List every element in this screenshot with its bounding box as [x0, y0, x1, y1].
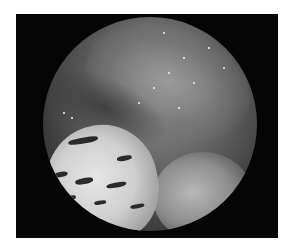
tissue-lobe: [153, 152, 253, 231]
specular-highlight: [223, 67, 225, 69]
mottle: [106, 181, 127, 189]
mottle: [94, 200, 107, 206]
image-frame: [16, 14, 278, 238]
specular-highlight: [208, 47, 210, 49]
mottle: [68, 195, 77, 200]
mottle: [75, 177, 94, 186]
endoscope-field: [43, 17, 257, 231]
specular-highlight: [138, 102, 140, 104]
mottle: [68, 135, 99, 146]
specular-highlight: [183, 57, 185, 59]
specular-highlight: [178, 107, 180, 109]
mottle: [53, 171, 68, 178]
specular-highlight: [163, 32, 165, 34]
specular-highlight: [71, 117, 73, 119]
mottle: [117, 154, 133, 162]
specular-highlight: [193, 82, 195, 84]
mottle: [130, 203, 144, 209]
specular-highlight: [153, 87, 155, 89]
specular-highlight: [168, 72, 170, 74]
specular-highlight: [63, 112, 65, 114]
